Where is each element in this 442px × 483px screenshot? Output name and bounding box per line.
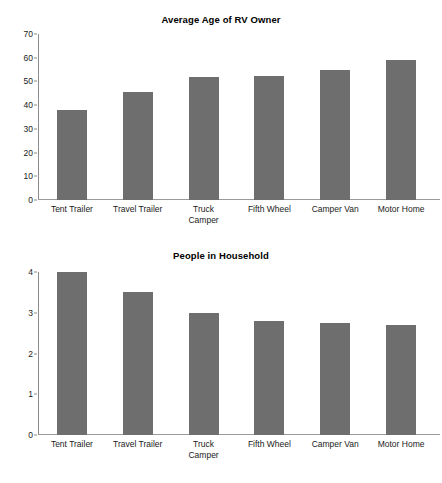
bar: [57, 110, 87, 200]
y-tick-mark: [34, 394, 37, 395]
y-tick-label: 0: [28, 430, 33, 440]
chart-people-in-household: People in Household 01234 Tent TrailerTr…: [0, 243, 442, 483]
y-tick-label: 70: [24, 29, 33, 39]
y-tick-label: 30: [24, 124, 33, 134]
x-axis-labels: Tent TrailerTravel TrailerTruckCamperFif…: [39, 439, 434, 461]
x-axis-label: Travel Trailer: [105, 439, 171, 461]
chart-title: People in Household: [0, 243, 442, 261]
bar-slot: [105, 34, 171, 200]
x-axis-label: Fifth Wheel: [236, 204, 302, 226]
x-axis-label: Motor Home: [368, 439, 434, 461]
y-tick-label: 20: [24, 148, 33, 158]
x-axis-label: Tent Trailer: [39, 204, 105, 226]
bar: [320, 323, 350, 435]
bar: [386, 60, 416, 200]
y-tick-mark: [34, 200, 37, 201]
bar: [123, 92, 153, 200]
bar-slot: [302, 34, 368, 200]
y-tick-label: 4: [28, 267, 33, 277]
y-tick-label: 60: [24, 53, 33, 63]
bar-slot: [171, 272, 237, 435]
y-tick-mark: [34, 312, 37, 313]
y-tick-mark: [34, 105, 37, 106]
x-axis-label: TruckCamper: [171, 439, 237, 461]
x-axis-label: Tent Trailer: [39, 439, 105, 461]
bar: [386, 325, 416, 435]
plot-area: 010203040506070: [38, 34, 434, 200]
y-tick-mark: [34, 176, 37, 177]
y-tick-mark: [34, 34, 37, 35]
y-tick-mark: [34, 353, 37, 354]
bar: [189, 313, 219, 435]
bar-slot: [171, 34, 237, 200]
bar-slot: [368, 272, 434, 435]
x-axis-label: Fifth Wheel: [236, 439, 302, 461]
bar-slot: [236, 272, 302, 435]
y-tick-label: 50: [24, 76, 33, 86]
plot-area: 01234: [38, 272, 434, 435]
y-tick-label: 1: [28, 389, 33, 399]
y-tick-mark: [34, 435, 37, 436]
x-axis-label: TruckCamper: [171, 204, 237, 226]
bar-slot: [39, 272, 105, 435]
bar: [254, 321, 284, 435]
y-tick-label: 3: [28, 308, 33, 318]
bar-slot: [236, 34, 302, 200]
bar: [320, 70, 350, 200]
bar-series: [39, 272, 434, 435]
bar-slot: [105, 272, 171, 435]
bar-slot: [368, 34, 434, 200]
y-tick-mark: [34, 128, 37, 129]
chart-title: Average Age of RV Owner: [0, 0, 442, 25]
y-tick-label: 2: [28, 349, 33, 359]
x-axis-label: Camper Van: [302, 439, 368, 461]
y-tick-mark: [34, 272, 37, 273]
y-tick-mark: [34, 57, 37, 58]
y-tick-mark: [34, 152, 37, 153]
x-axis-label: Motor Home: [368, 204, 434, 226]
chart-average-age-of-rv-owner: Average Age of RV Owner 010203040506070 …: [0, 0, 442, 243]
y-tick-mark: [34, 81, 37, 82]
bar: [254, 76, 284, 201]
bar-series: [39, 34, 434, 200]
bar: [189, 77, 219, 200]
bar: [123, 292, 153, 435]
x-axis-label: Camper Van: [302, 204, 368, 226]
x-axis-labels: Tent TrailerTravel TrailerTruckCamperFif…: [39, 204, 434, 226]
bar: [57, 272, 87, 435]
y-tick-label: 40: [24, 100, 33, 110]
x-axis-label: Travel Trailer: [105, 204, 171, 226]
bar-slot: [302, 272, 368, 435]
bar-slot: [39, 34, 105, 200]
y-tick-label: 0: [28, 195, 33, 205]
y-tick-label: 10: [24, 171, 33, 181]
